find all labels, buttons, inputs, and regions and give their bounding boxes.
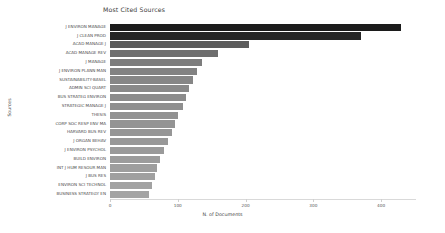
- category-label: J ENVIRON MANAGE: [66, 23, 106, 31]
- bar: [110, 68, 197, 75]
- bar-row: J ENVIRON PLANN MAN: [110, 67, 415, 76]
- bar: [110, 182, 152, 189]
- bar: [110, 41, 249, 48]
- bar: [110, 138, 168, 145]
- bar-row: SUSTAINABILITY-BASEL: [110, 76, 415, 85]
- bar-row: BUS STRATEG ENVIRON: [110, 93, 415, 102]
- x-axis-tick-label: 100: [174, 203, 182, 208]
- bar-row: J ENVIRON PSYCHOL: [110, 146, 415, 155]
- bar: [110, 24, 401, 31]
- x-axis-tick: [246, 199, 247, 202]
- bar-row: ENVIRON SCI TECHNOL: [110, 181, 415, 190]
- bar: [110, 156, 160, 163]
- category-label: INT J HUM RESOUR MAN: [57, 164, 106, 172]
- bar: [110, 191, 149, 198]
- bar-row: HARVARD BUS REV: [110, 129, 415, 138]
- x-axis-tick-label: 300: [309, 203, 317, 208]
- category-label: J BUS RES: [86, 172, 106, 180]
- bar: [110, 59, 202, 66]
- category-label: BUSINESS STRATEGY EN: [56, 190, 106, 198]
- x-axis-tick: [313, 199, 314, 202]
- category-label: J ORGAN BEHAV: [73, 137, 106, 145]
- chart-title: Most Cited Sources: [103, 6, 165, 13]
- y-axis-title: Sources: [7, 88, 12, 128]
- bar: [110, 32, 361, 39]
- bar-row: ACAD MANAGE REV: [110, 49, 415, 58]
- x-axis-title: N. of Documents: [0, 212, 445, 217]
- category-label: J ENVIRON PSYCHOL: [65, 146, 106, 154]
- x-axis-tick: [178, 199, 179, 202]
- bar-row: INT J HUM RESOUR MAN: [110, 164, 415, 173]
- category-label: SUSTAINABILITY-BASEL: [59, 76, 106, 84]
- plot-area: J ENVIRON MANAGEJ CLEAN PRODACAD MANAGE …: [110, 23, 415, 199]
- bar-row: J BUS RES: [110, 173, 415, 182]
- category-label: J ENVIRON PLANN MAN: [59, 67, 106, 75]
- bar: [110, 147, 164, 154]
- bar: [110, 112, 178, 119]
- bar: [110, 94, 186, 101]
- bar-row: BUILD ENVIRON: [110, 155, 415, 164]
- category-label: ACAD MANAGE J: [73, 40, 106, 48]
- x-axis-tick-label: 200: [242, 203, 250, 208]
- bar-row: BUSINESS STRATEGY EN: [110, 190, 415, 199]
- category-label: HARVARD BUS REV: [67, 128, 106, 136]
- x-axis-tick: [381, 199, 382, 202]
- bar-row: THESIS: [110, 111, 415, 120]
- category-label: ENVIRON SCI TECHNOL: [58, 181, 106, 189]
- x-axis-tick-label: 0: [109, 203, 112, 208]
- category-label: STRATEGIC MANAGE J: [62, 102, 106, 110]
- most-cited-sources-chart: Most Cited Sources Sources J ENVIRON MAN…: [0, 0, 445, 233]
- category-label: THESIS: [91, 111, 106, 119]
- bar-row: J MANAGE: [110, 58, 415, 67]
- bar-row: ACAD MANAGE J: [110, 41, 415, 50]
- x-axis-tick: [110, 199, 111, 202]
- bar: [110, 120, 175, 127]
- bar-row: J ENVIRON MANAGE: [110, 23, 415, 32]
- bar-row: J ORGAN BEHAV: [110, 137, 415, 146]
- x-axis-tick-label: 400: [377, 203, 385, 208]
- category-label: ACAD MANAGE REV: [66, 49, 106, 57]
- bar-row: ADMIN SCI QUART: [110, 85, 415, 94]
- bar-row: STRATEGIC MANAGE J: [110, 102, 415, 111]
- category-label: J MANAGE: [86, 58, 106, 66]
- bar-row: CORP SOC RESP ENV MA: [110, 120, 415, 129]
- category-label: ADMIN SCI QUART: [69, 84, 106, 92]
- x-axis-line: [110, 199, 416, 200]
- bar: [110, 129, 172, 136]
- category-label: J CLEAN PROD: [77, 32, 106, 40]
- bar-row: J CLEAN PROD: [110, 32, 415, 41]
- bar: [110, 50, 218, 57]
- category-label: CORP SOC RESP ENV MA: [55, 120, 106, 128]
- bar: [110, 173, 155, 180]
- category-label: BUILD ENVIRON: [73, 155, 106, 163]
- bar: [110, 103, 183, 110]
- bar: [110, 76, 193, 83]
- category-label: BUS STRATEG ENVIRON: [58, 93, 106, 101]
- bar: [110, 85, 189, 92]
- bar: [110, 164, 157, 171]
